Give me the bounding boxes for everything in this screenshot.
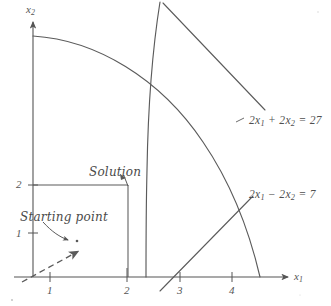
x-axis-ticks — [50, 268, 232, 282]
x-tick-label-2: 2 — [124, 285, 130, 296]
scan-speckles — [11, 11, 319, 301]
eq-diff-operator: − — [268, 188, 276, 200]
equation-constraint-sum: 2x1 + 2x2 = 27 — [249, 115, 322, 129]
eq-diff-sub-a: 1 — [260, 193, 264, 202]
equation-constraint-diff: 2x1 − 2x2 = 7 — [249, 189, 316, 203]
x-axis-label-sub: 1 — [299, 275, 303, 284]
y-axis-label: x2 — [26, 4, 35, 17]
eq-sum-sub-b: 2 — [291, 119, 295, 128]
constraint-line-sum — [163, 3, 265, 110]
y-tick-label-2: 2 — [16, 179, 22, 190]
solution-label: Solution — [89, 166, 141, 178]
eq-sum-sub-a: 1 — [260, 119, 264, 128]
eq-diff-rhs: 7 — [310, 188, 316, 200]
equation-sum-pointer — [236, 118, 244, 122]
figure-page: x2 x1 1 2 3 4 1 2 Solution Starting poin… — [0, 0, 331, 306]
y-tick-label-1: 1 — [16, 228, 22, 239]
eq-sum-rhs: 27 — [310, 114, 322, 126]
starting-point-pointer — [43, 222, 78, 242]
eq-diff-sub-b: 2 — [291, 193, 295, 202]
starting-point-label: Starting point — [20, 211, 108, 223]
eq-sum-operator: + — [268, 114, 276, 126]
graph-figure — [0, 0, 331, 306]
inner-constraint-arc — [146, 2, 160, 277]
solution-rectangle — [33, 185, 128, 277]
x-tick-label-1: 1 — [47, 285, 53, 296]
x-tick-label-4: 4 — [229, 285, 235, 296]
x-tick-label-3: 3 — [177, 285, 183, 296]
eq-sum-equals: = — [298, 114, 306, 126]
eq-diff-equals: = — [298, 188, 306, 200]
y-axis-label-sub: 2 — [31, 8, 35, 17]
x-axis-label: x1 — [294, 271, 303, 284]
